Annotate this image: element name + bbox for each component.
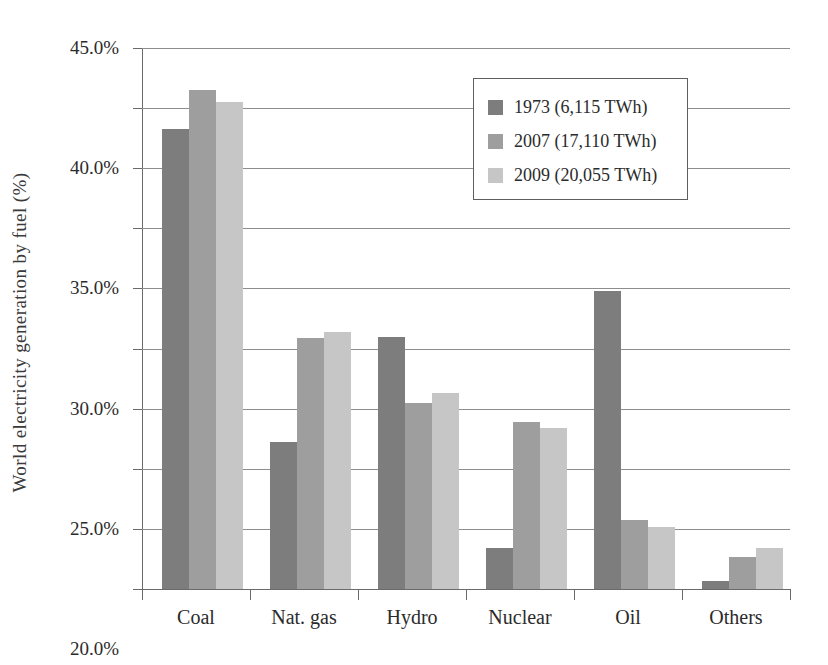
legend-label: 1973 (6,115 TWh) [514, 97, 647, 118]
bar[interactable] [621, 520, 648, 589]
y-tick-mark: 15.0% [133, 409, 142, 410]
x-tick-mark [358, 589, 359, 600]
x-tick-mark [574, 589, 575, 600]
legend-swatch-icon [488, 168, 503, 183]
legend-swatch-icon [488, 100, 503, 115]
bar[interactable] [702, 581, 729, 589]
x-tick-mark [790, 589, 791, 600]
bar[interactable] [648, 527, 675, 590]
x-tick-label: Others [661, 606, 811, 629]
bar-group [270, 48, 351, 589]
legend-label: 2009 (20,055 TWh) [514, 165, 657, 186]
y-tick-label: 35.0% [70, 277, 119, 299]
legend-item[interactable]: 2009 (20,055 TWh) [488, 158, 687, 192]
y-tick-mark: 10.0% [133, 469, 142, 470]
bar-group [162, 48, 243, 589]
legend-label: 2007 (17,110 TWh) [514, 131, 656, 152]
y-tick-label: 25.0% [70, 518, 119, 540]
y-tick-mark: 45.0% [133, 48, 142, 49]
y-tick-mark: 0.0% [133, 589, 142, 590]
bar-group [378, 48, 459, 589]
bar[interactable] [594, 291, 621, 589]
bar[interactable] [189, 90, 216, 589]
bar[interactable] [378, 337, 405, 589]
bar[interactable] [486, 548, 513, 589]
y-tick-mark: 40.0% [133, 108, 142, 109]
y-tick-mark: 35.0% [133, 168, 142, 169]
bar-group [702, 48, 783, 589]
y-tick-label: 30.0% [70, 398, 119, 420]
x-tick-mark [142, 589, 143, 600]
bar[interactable] [405, 403, 432, 589]
y-tick-label: 45.0% [70, 37, 119, 59]
bar[interactable] [270, 442, 297, 589]
bar[interactable] [216, 102, 243, 589]
legend-item[interactable]: 1973 (6,115 TWh) [488, 90, 687, 124]
y-tick-mark: 25.0% [133, 288, 142, 289]
bar-chart: World electricity generation by fuel (%)… [0, 0, 828, 665]
chart-legend: 1973 (6,115 TWh)2007 (17,110 TWh)2009 (2… [473, 78, 688, 200]
y-tick-mark: 5.0% [133, 529, 142, 530]
y-axis-title: World electricity generation by fuel (%) [0, 0, 40, 665]
bar[interactable] [729, 557, 756, 589]
bar[interactable] [756, 548, 783, 589]
bar[interactable] [513, 422, 540, 589]
bar[interactable] [297, 338, 324, 589]
bar[interactable] [324, 332, 351, 589]
y-tick-label: 20.0% [70, 638, 119, 660]
legend-item[interactable]: 2007 (17,110 TWh) [488, 124, 687, 158]
y-tick-label: 40.0% [70, 157, 119, 179]
x-tick-mark [466, 589, 467, 600]
x-tick-mark [250, 589, 251, 600]
bar[interactable] [540, 428, 567, 589]
plot-area: 0.0%5.0%10.0%15.0%20.0%25.0%30.0%35.0%40… [142, 48, 790, 589]
y-tick-mark: 30.0% [133, 228, 142, 229]
bar[interactable] [162, 129, 189, 589]
x-tick-mark [682, 589, 683, 600]
legend-swatch-icon [488, 134, 503, 149]
bar[interactable] [432, 393, 459, 589]
y-tick-mark: 20.0% [133, 349, 142, 350]
